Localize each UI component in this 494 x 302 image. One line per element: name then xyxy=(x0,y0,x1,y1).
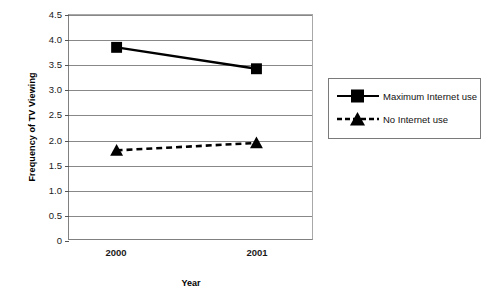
y-tick-label: 2.0 xyxy=(28,134,62,145)
chart-figure: Frequency of TV Viewing 4.5 4.0 3.5 3.0 … xyxy=(0,0,494,302)
x-axis-title: Year xyxy=(68,278,314,288)
y-tick-label: 3.0 xyxy=(28,84,62,95)
y-axis-tick-labels: 4.5 4.0 3.5 3.0 2.5 2.0 1.5 1.0 0.5 0 xyxy=(28,14,62,240)
plot-area xyxy=(68,14,313,240)
data-point-square xyxy=(251,63,262,74)
legend-item-no-internet-use: No Internet use xyxy=(335,111,448,127)
legend-item-maximum-internet-use: Maximum Internet use xyxy=(335,88,477,104)
square-marker-icon xyxy=(335,88,381,104)
series-line xyxy=(117,143,257,150)
legend-label: Maximum Internet use xyxy=(383,91,477,102)
x-tick-label: 2000 xyxy=(105,247,126,258)
series-no-internet-use xyxy=(110,136,263,155)
x-axis-tick-labels: 2000 2001 xyxy=(68,247,313,261)
y-tick-label: 1.0 xyxy=(28,184,62,195)
series-line xyxy=(117,47,257,68)
data-series-layer xyxy=(69,15,312,239)
series-maximum-internet-use xyxy=(111,42,262,74)
y-tick-label: 4.5 xyxy=(28,9,62,20)
data-point-square xyxy=(111,42,122,53)
legend-label: No Internet use xyxy=(383,114,448,125)
y-tick-label: 0 xyxy=(28,235,62,246)
y-tick-label: 1.5 xyxy=(28,159,62,170)
y-tick-label: 0.5 xyxy=(28,209,62,220)
y-tick-label: 3.5 xyxy=(28,59,62,70)
data-point-triangle xyxy=(250,136,263,148)
chart-legend: Maximum Internet use No Internet use xyxy=(328,78,481,139)
y-tick-label: 2.5 xyxy=(28,109,62,120)
y-tick-label: 4.0 xyxy=(28,34,62,45)
x-tick-label: 2001 xyxy=(246,247,267,258)
y-tick-mark xyxy=(65,241,69,242)
triangle-marker-icon xyxy=(335,111,381,127)
